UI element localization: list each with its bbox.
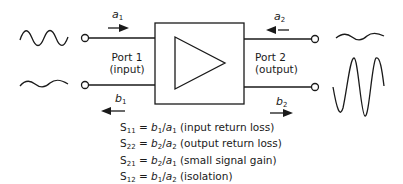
port2-title: Port 2 [255,51,298,63]
port1-subtitle: (input) [104,63,150,75]
input-reflected-wave-icon [20,80,68,87]
equation-s22: S22 = b2/a2 (output return loss) [120,137,282,153]
equation-s21: S21 = b2/a1 (small signal gain) [120,154,282,170]
b2-label: b2 [276,95,287,109]
b1-label: b1 [115,92,126,106]
b2-arrow-icon [283,109,293,117]
equation-s11: S11 = b1/a1 (input return loss) [120,121,282,137]
port2-terminal-top [312,36,319,43]
port1-title: Port 1 [104,51,150,63]
b1-arrow-icon [101,107,111,115]
input-incident-wave-icon [20,31,68,46]
port2-label: Port 2 (output) [255,51,298,75]
a2-label: a2 [274,10,285,24]
port2-terminal-bottom [312,84,319,91]
port1-label: Port 1 (input) [104,51,150,75]
a1-label: a1 [112,8,123,22]
amplifier-triangle-icon [175,37,225,89]
equation-s12: S12 = b1/a2 (isolation) [120,170,282,184]
output-reflected-wave-icon [336,33,384,40]
amplifier-box [155,23,244,104]
port2-subtitle: (output) [255,63,298,75]
a2-arrow-icon [266,26,276,34]
s-parameter-equations: S11 = b1/a1 (input return loss) S22 = b2… [120,121,282,184]
port1-terminal-top [82,35,89,42]
a1-arrow-icon [119,24,129,32]
output-amplified-wave-icon [333,58,384,116]
port1-terminal-bottom [82,82,89,89]
